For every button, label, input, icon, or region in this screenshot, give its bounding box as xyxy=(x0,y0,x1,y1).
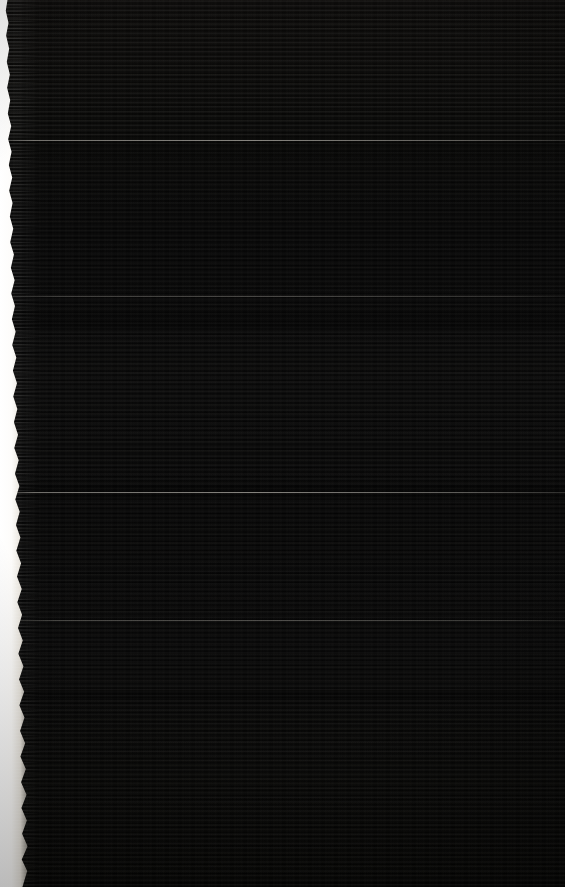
photograph-frame xyxy=(0,0,565,887)
glyph-like-noise-texture xyxy=(0,0,565,887)
left-edge-fray-texture xyxy=(0,0,40,887)
